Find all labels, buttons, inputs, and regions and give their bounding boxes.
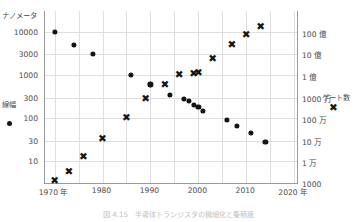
- right-tick-label: 1 億: [302, 70, 317, 81]
- x-axis-tick-labels: 1970 年19801990200020102020 年: [0, 186, 357, 200]
- left-tick-label: 10: [28, 157, 38, 166]
- data-point-gatecount: ✖: [122, 112, 131, 121]
- data-point-linewidth: [234, 124, 239, 129]
- data-point-linewidth: [52, 29, 57, 34]
- right-tick-label: 10 万: [302, 135, 322, 146]
- data-point-gatecount: ✖: [141, 94, 150, 103]
- gridline-horizontal: [45, 75, 297, 76]
- data-point-gatecount: ✖: [175, 70, 184, 79]
- right-tick-label: 1 万: [302, 157, 317, 168]
- data-point-linewidth: [167, 92, 172, 97]
- figure-caption: 図 4.15 半導体トランジスタの微細化と集積度: [0, 209, 357, 219]
- x-tick-label: 2010: [236, 186, 255, 195]
- data-point-gatecount: ✖: [208, 53, 217, 62]
- left-tick-label: 3000: [19, 50, 38, 59]
- legend-gatecount-label: ゲート数: [322, 92, 357, 102]
- left-tick-label: 30: [28, 136, 38, 145]
- data-point-gatecount: ✖: [64, 166, 73, 175]
- data-point-linewidth: [90, 52, 95, 57]
- x-tick-label: 1980: [92, 186, 111, 195]
- gridline-horizontal: [45, 161, 297, 162]
- semiconductor-scaling-chart: ナノメータ 10000300010003001003010 100 億10 億1…: [0, 0, 357, 222]
- legend-linewidth-label: 線幅: [1, 99, 41, 109]
- gridline-horizontal: [45, 141, 297, 142]
- x-tick-label: 1970 年: [39, 186, 69, 197]
- legend-linewidth: 線幅: [1, 99, 41, 130]
- gridline-horizontal: [45, 118, 297, 119]
- legend-linewidth-marker: [1, 111, 41, 130]
- legend-gatecount: ゲート数 ✖: [322, 92, 357, 112]
- data-point-gatecount: ✖: [98, 134, 107, 143]
- data-point-gatecount: ✖: [194, 68, 203, 77]
- data-point-gatecount: ✖: [50, 176, 59, 185]
- data-point-linewidth: [129, 72, 134, 77]
- data-point-gatecount: ✖: [242, 29, 251, 38]
- x-tick-label: 1990: [140, 186, 159, 195]
- data-point-linewidth: [148, 82, 153, 87]
- plot-area: ✖✖✖✖✖✖✖✖✖✖✖✖✖✖: [44, 11, 298, 184]
- data-point-gatecount: ✖: [79, 151, 88, 160]
- gridline-horizontal: [45, 32, 297, 33]
- right-tick-label: 10 億: [302, 49, 322, 60]
- data-point-linewidth: [263, 139, 268, 144]
- right-tick-label: 100 万: [302, 114, 327, 125]
- left-tick-label: 1000: [19, 70, 38, 79]
- x-tick-label: 2020 年: [278, 186, 308, 197]
- data-point-linewidth: [71, 42, 76, 47]
- gridline-horizontal: [45, 54, 297, 55]
- data-point-gatecount: ✖: [160, 80, 169, 89]
- data-point-linewidth: [248, 131, 253, 136]
- data-point-linewidth: [225, 118, 230, 123]
- right-tick-label: 100 億: [302, 27, 327, 38]
- legend-gatecount-marker: ✖: [322, 102, 357, 112]
- data-point-linewidth: [201, 108, 206, 113]
- x-tick-label: 2000: [188, 186, 207, 195]
- data-point-gatecount: ✖: [256, 22, 265, 31]
- data-point-gatecount: ✖: [227, 39, 236, 48]
- gridline-horizontal: [45, 98, 297, 99]
- left-tick-label: 10000: [14, 27, 38, 36]
